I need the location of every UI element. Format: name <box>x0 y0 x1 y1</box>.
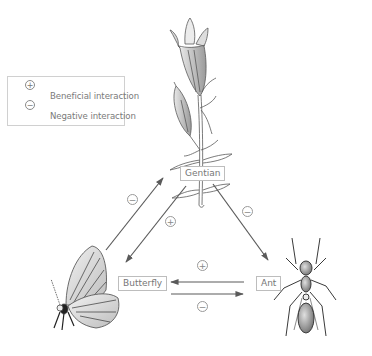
interaction-diagram: + Beneficial interaction − Negative inte… <box>0 0 372 356</box>
node-butterfly: Butterfly <box>118 276 167 291</box>
plus-circle-icon: + <box>25 80 35 90</box>
plus-circle-icon: + <box>165 216 176 227</box>
legend-item-negative: − Negative interaction <box>8 100 126 124</box>
minus-circle-icon: − <box>25 100 35 110</box>
legend-label: Negative interaction <box>50 111 136 121</box>
minus-circle-icon: − <box>242 206 253 217</box>
minus-circle-icon: − <box>197 301 208 312</box>
node-ant: Ant <box>256 276 281 291</box>
minus-circle-icon: − <box>127 194 138 205</box>
arrow-gentian-to-ant <box>213 184 268 260</box>
node-gentian: Gentian <box>180 166 225 181</box>
ant-illustration <box>274 238 336 336</box>
plus-circle-icon: + <box>197 260 208 271</box>
arrow-butterfly-to-gentian <box>106 178 163 250</box>
legend: + Beneficial interaction − Negative inte… <box>7 76 125 126</box>
butterfly-illustration <box>51 246 119 330</box>
